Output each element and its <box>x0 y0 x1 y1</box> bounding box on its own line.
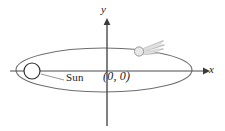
y-axis-label: y <box>101 4 106 15</box>
sun-leader-line <box>41 74 64 80</box>
comet-tail-glow <box>144 44 160 53</box>
origin-label: (0, 0) <box>103 70 130 82</box>
comet-orbit-diagram: y x (0, 0) Sun <box>0 0 225 131</box>
x-axis-label: x <box>209 64 214 75</box>
comet-head-circle <box>134 47 143 56</box>
sun-label: Sun <box>66 72 84 83</box>
y-axis-arrowhead <box>104 18 111 25</box>
sun-circle <box>24 63 40 79</box>
diagram-canvas <box>0 0 225 131</box>
